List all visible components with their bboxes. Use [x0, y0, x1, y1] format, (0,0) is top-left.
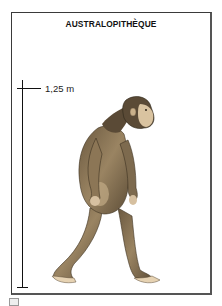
height-scale-top-tick: [17, 88, 41, 89]
card-title: AUSTRALOPITHÈQUE: [0, 19, 222, 29]
australopithecus-illustration: [40, 88, 180, 288]
corner-marker: [9, 298, 19, 306]
height-scale-bottom-tick: [17, 287, 28, 288]
height-scale-line: [22, 80, 23, 288]
